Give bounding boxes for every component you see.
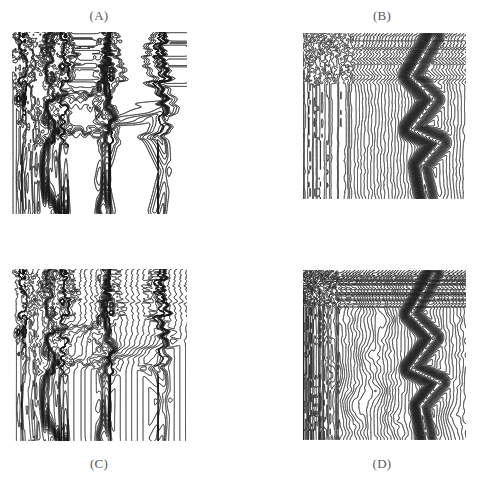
panel-a-label: (A): [59, 8, 139, 24]
panel-b-label: (B): [342, 8, 422, 24]
panel-a-plot: [12, 32, 187, 214]
panel-c-plot: [12, 269, 187, 441]
panel-d-label: (D): [342, 456, 422, 472]
contour-plot-a: [12, 32, 187, 214]
contour-plot-d: [303, 270, 466, 440]
contour-plot-b: [303, 33, 466, 199]
caption-strip: [0, 474, 477, 484]
panel-d-plot: [303, 270, 466, 440]
contour-plot-c: [12, 269, 187, 441]
panel-b-plot: [303, 33, 466, 199]
figure-root: (A) (B) (C) (D): [0, 0, 477, 484]
panel-c-label: (C): [59, 456, 139, 472]
